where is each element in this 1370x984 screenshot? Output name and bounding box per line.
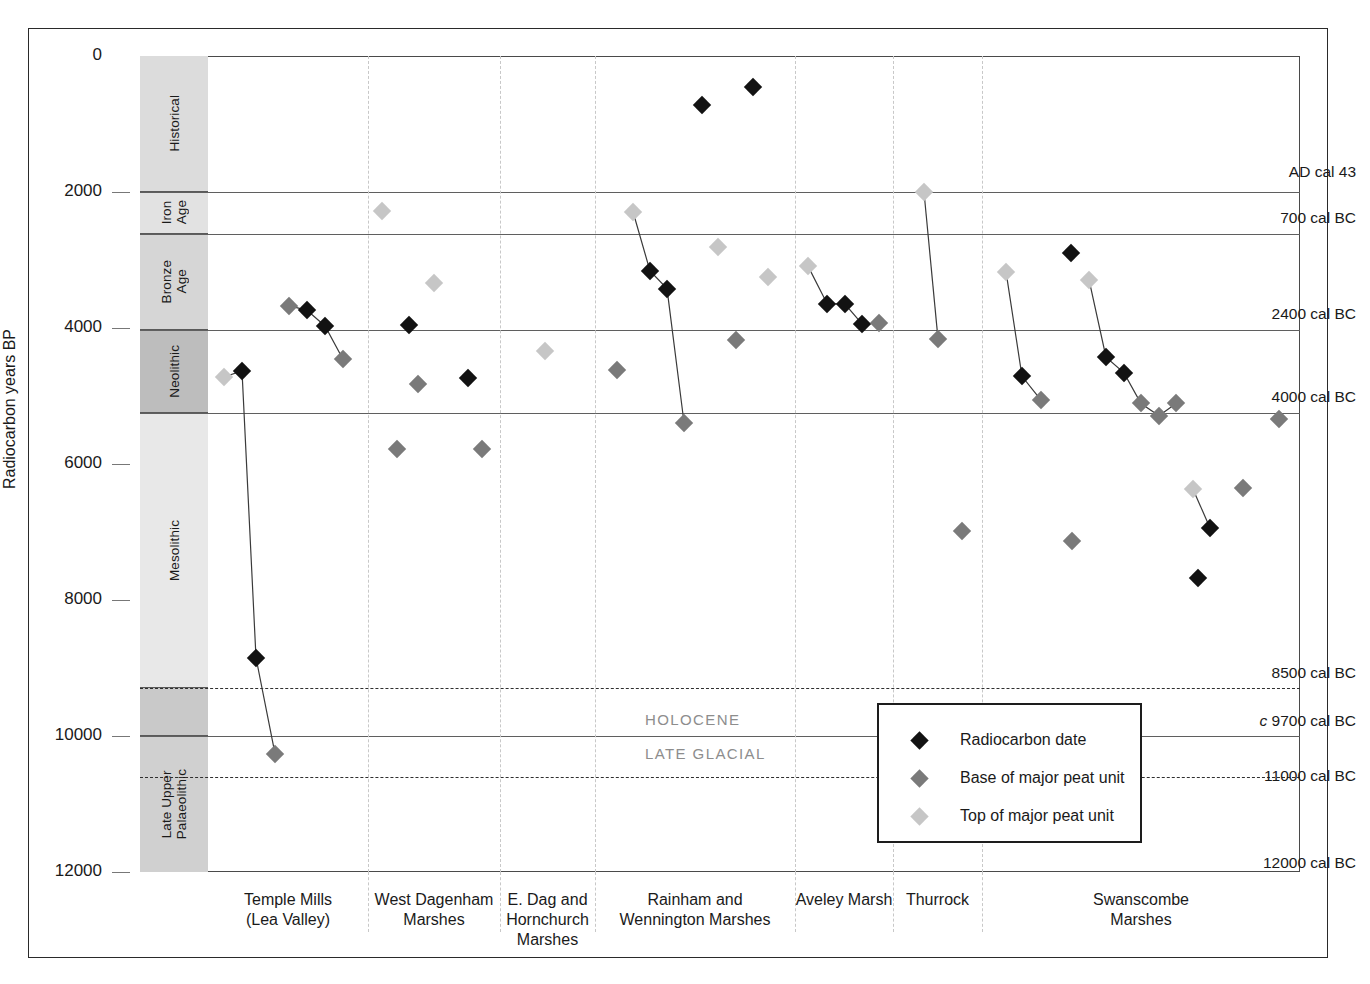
period-band-label: Iron Age: [159, 200, 189, 224]
period-band: Bronze Age: [140, 234, 208, 330]
y-tick-mark: [112, 192, 130, 193]
calendar-date-label: 11000 cal BC: [1264, 767, 1356, 785]
legend-item: Top of major peat unit: [879, 799, 1144, 833]
period-band-label: Late Upper Palaeolithic: [159, 769, 189, 839]
epoch-label: LATE GLACIAL: [645, 745, 766, 762]
period-boundary-line: [140, 192, 1300, 193]
epoch-label: HOLOCENE: [645, 711, 740, 728]
site-divider: [595, 56, 596, 872]
legend-item: Radiocarbon date: [879, 723, 1144, 757]
y-tick-label: 2000: [16, 181, 102, 201]
period-boundary-line-dashed: [140, 688, 1300, 689]
site-label: Rainham and Wennington Marshes: [595, 890, 795, 930]
y-tick-label: 12000: [16, 861, 102, 881]
site-label: Thurrock: [893, 890, 982, 910]
y-tick-mark: [112, 736, 130, 737]
period-band-label: Historical: [167, 95, 182, 152]
site-label: Swanscombe Marshes: [982, 890, 1300, 930]
site-label: Temple Mills (Lea Valley): [208, 890, 368, 930]
period-band: Mesolithic: [140, 413, 208, 688]
y-tick-mark: [112, 464, 130, 465]
y-tick-label: 6000: [16, 453, 102, 473]
calendar-date-label: 12000 cal BC: [1263, 854, 1356, 872]
legend-marker-icon: [910, 807, 928, 825]
calendar-date-label: 700 cal BC: [1280, 209, 1356, 227]
period-band: Neolithic: [140, 330, 208, 413]
legend-item-label: Base of major peat unit: [960, 769, 1125, 787]
site-divider: [795, 56, 796, 872]
period-band: Iron Age: [140, 192, 208, 234]
figure-root: Radiocarbon years BP 0200040006000800010…: [0, 0, 1370, 984]
legend-item-label: Top of major peat unit: [960, 807, 1114, 825]
site-label: West Dagenham Marshes: [368, 890, 500, 930]
site-divider: [500, 56, 501, 872]
legend-item: Base of major peat unit: [879, 761, 1144, 795]
period-band: Historical: [140, 56, 208, 192]
period-boundary-line: [140, 330, 1300, 331]
calendar-date-label: c 9700 cal BC: [1259, 712, 1356, 730]
y-tick-mark: [112, 872, 130, 873]
legend-marker-icon: [910, 731, 928, 749]
calendar-date-label: AD cal 43: [1289, 163, 1356, 181]
y-tick-label: 4000: [16, 317, 102, 337]
site-label: E. Dag and Hornchurch Marshes: [500, 890, 595, 950]
calendar-date-label: 8500 cal BC: [1272, 664, 1356, 682]
legend-box: Radiocarbon dateBase of major peat unitT…: [877, 703, 1142, 843]
legend-marker-icon: [910, 769, 928, 787]
calendar-date-label: 2400 cal BC: [1272, 305, 1356, 323]
period-band-column: HistoricalIron AgeBronze AgeNeolithicMes…: [140, 56, 208, 872]
period-boundary-line: [140, 413, 1300, 414]
y-tick-mark: [112, 328, 130, 329]
period-band: Late Upper Palaeolithic: [140, 736, 208, 872]
y-tick-mark: [112, 600, 130, 601]
period-band-label: Mesolithic: [167, 520, 182, 581]
period-boundary-line: [140, 234, 1300, 235]
y-tick-label: 8000: [16, 589, 102, 609]
y-tick-label: 10000: [16, 725, 102, 745]
y-tick-mark: [112, 56, 130, 57]
period-band: [140, 688, 208, 736]
calendar-date-label: 4000 cal BC: [1272, 388, 1356, 406]
site-label: Aveley Marsh: [795, 890, 893, 910]
y-tick-label: 0: [16, 45, 102, 65]
period-band-label: Neolithic: [167, 345, 182, 398]
legend-item-label: Radiocarbon date: [960, 731, 1086, 749]
site-divider: [368, 56, 369, 872]
period-band-label: Bronze Age: [159, 260, 189, 303]
